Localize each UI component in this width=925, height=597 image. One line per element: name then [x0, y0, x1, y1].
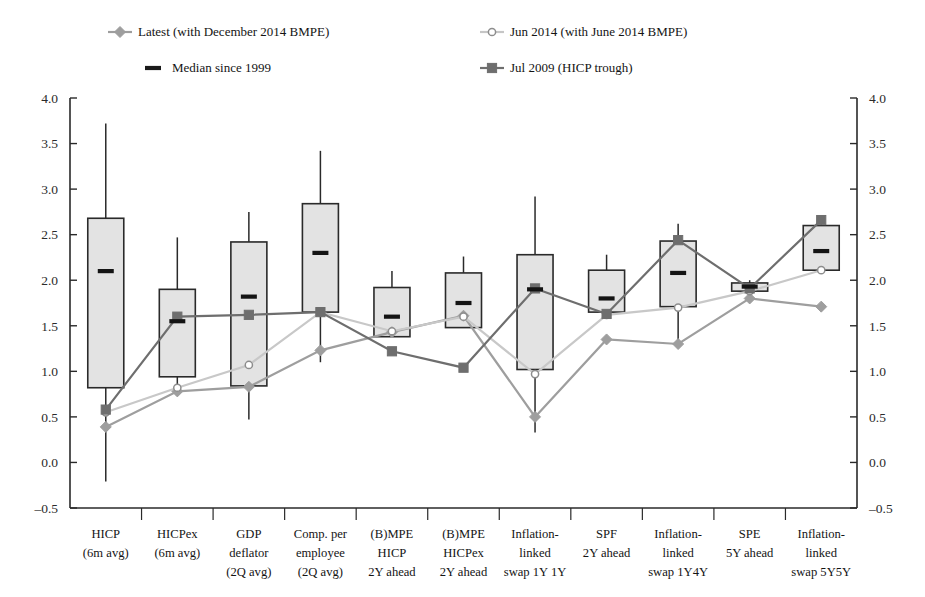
marker-open-circle — [818, 267, 825, 274]
y-tick-label-left: 0.5 — [41, 410, 58, 425]
marker-square — [316, 308, 325, 317]
y-tick-label-right: 0.5 — [869, 410, 886, 425]
legend-label: Jun 2014 (with June 2014 BMPE) — [510, 24, 687, 39]
y-tick-label-right: 2.5 — [869, 227, 886, 242]
chart-root: Latest (with December 2014 BMPE)Jun 2014… — [0, 0, 925, 597]
y-tick-label-right: 1.5 — [869, 319, 886, 334]
marker-square — [101, 405, 110, 414]
y-tick-label-left: 3.5 — [41, 136, 58, 151]
marker-square — [602, 309, 611, 318]
y-tick-label-left: 4.0 — [41, 91, 58, 106]
category-label: HICPex — [443, 546, 484, 560]
legend-item: Latest (with December 2014 BMPE) — [108, 24, 329, 39]
y-tick-label-right: 2.0 — [869, 273, 886, 288]
marker-open-circle — [675, 304, 682, 311]
category-label: 5Y ahead — [726, 546, 774, 560]
category-label: GDP — [236, 527, 261, 541]
category-label: (2Q avg) — [298, 565, 343, 579]
marker-square — [674, 236, 683, 245]
category-label: (2Q avg) — [226, 565, 271, 579]
legend-marker-open-circle — [488, 28, 495, 35]
marker-square — [817, 215, 826, 224]
y-tick-label-left: 2.0 — [41, 273, 58, 288]
category-label: deflator — [229, 546, 269, 560]
category-label: linked — [519, 546, 551, 560]
y-tick-label-left: 1.5 — [41, 319, 58, 334]
legend-label: Jul 2009 (HICP trough) — [510, 60, 633, 75]
category-label: HICPex — [157, 527, 198, 541]
category-label: linked — [662, 546, 694, 560]
category-label: 2Y ahead — [583, 546, 631, 560]
y-tick-label-right: 0.0 — [869, 455, 886, 470]
y-tick-label-right: –0.5 — [868, 501, 893, 516]
marker-open-circle — [174, 384, 181, 391]
marker-open-circle — [245, 361, 252, 368]
category-label: HICP — [378, 546, 407, 560]
category-label: (B)MPE — [371, 527, 414, 541]
category-label: employee — [296, 546, 345, 560]
marker-open-circle — [460, 313, 467, 320]
category-label: swap 5Y5Y — [791, 565, 851, 579]
y-tick-label-left: 0.0 — [41, 455, 58, 470]
legend-marker-square — [487, 63, 496, 72]
category-label: 2Y ahead — [440, 565, 488, 579]
category-label: (6m avg) — [83, 546, 129, 560]
category-label: (B)MPE — [442, 527, 485, 541]
box-iqr — [517, 255, 553, 370]
y-tick-label-right: 3.5 — [869, 136, 886, 151]
marker-square — [244, 310, 253, 319]
y-tick-label-left: –0.5 — [33, 501, 58, 516]
category-label: 2Y ahead — [368, 565, 416, 579]
category-label: HICP — [91, 527, 120, 541]
category-label: (6m avg) — [154, 546, 200, 560]
box-iqr — [302, 204, 338, 312]
legend-label: Median since 1999 — [172, 60, 271, 75]
y-tick-label-left: 1.0 — [41, 364, 58, 379]
boxplot-chart: Latest (with December 2014 BMPE)Jun 2014… — [0, 0, 925, 597]
category-label: linked — [805, 546, 837, 560]
box-iqr — [88, 218, 124, 387]
category-label: Inflation- — [797, 527, 845, 541]
y-tick-label-right: 4.0 — [869, 91, 886, 106]
category-label: SPE — [739, 527, 761, 541]
box-iqr — [589, 270, 625, 312]
marker-open-circle — [531, 370, 538, 377]
category-label: swap 1Y4Y — [648, 565, 708, 579]
category-label: Comp. per — [294, 527, 348, 541]
y-tick-label-left: 3.0 — [41, 182, 58, 197]
category-label: Inflation- — [511, 527, 559, 541]
legend-label: Latest (with December 2014 BMPE) — [138, 24, 329, 39]
category-label: swap 1Y 1Y — [504, 565, 567, 579]
y-tick-label-right: 1.0 — [869, 364, 886, 379]
marker-open-circle — [388, 328, 395, 335]
category-label: SPF — [596, 527, 617, 541]
y-tick-label-right: 3.0 — [869, 182, 886, 197]
y-tick-label-left: 2.5 — [41, 227, 58, 242]
category-label: Inflation- — [654, 527, 702, 541]
marker-square — [459, 363, 468, 372]
marker-square — [387, 347, 396, 356]
legend-item: Jun 2014 (with June 2014 BMPE) — [480, 24, 687, 39]
